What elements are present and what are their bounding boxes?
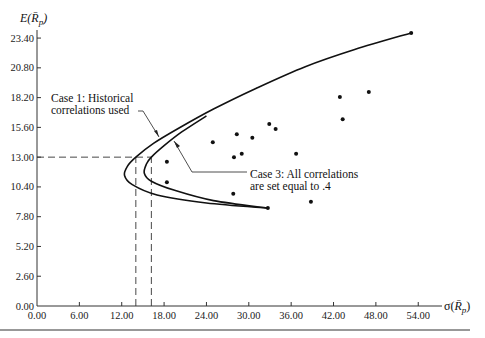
security-point: [211, 140, 215, 144]
x-tick-label: 42.00: [322, 310, 346, 321]
security-point: [367, 90, 371, 94]
y-tick-label: 7.80: [16, 211, 34, 222]
case1-label-line1: Case 1: Historical: [51, 92, 133, 104]
x-ticks: 0.006.0012.0018.0024.0030.0036.0042.0048…: [28, 302, 430, 321]
security-point: [341, 117, 345, 121]
y-tick-label: 0.00: [16, 301, 34, 312]
case3-label-line1: Case 3: All correlations: [250, 168, 359, 180]
security-point: [232, 155, 236, 159]
x-tick-label: 12.00: [110, 310, 134, 321]
case3-frontier-curve: [144, 116, 268, 208]
case3-leader-line: [174, 141, 247, 172]
security-point: [338, 95, 342, 99]
reference-lines: [37, 157, 151, 306]
case1-label-line2: correlations used: [51, 104, 129, 116]
security-point: [266, 206, 270, 210]
security-point: [294, 152, 298, 156]
security-point: [250, 136, 254, 140]
y-tick-label: 15.60: [10, 122, 34, 133]
x-tick-label: 36.00: [279, 310, 303, 321]
y-tick-label: 23.40: [10, 33, 34, 44]
x-tick-label: 48.00: [364, 310, 388, 321]
case3-annotation: Case 3: All correlations are set equal t…: [174, 141, 359, 193]
x-tick-label: 6.00: [70, 310, 88, 321]
case3-label-line2: are set equal to .4: [250, 180, 331, 193]
case1-arrow-icon: [154, 130, 159, 137]
security-point: [240, 152, 244, 156]
security-point: [231, 192, 235, 196]
security-point: [409, 31, 413, 35]
efficient-frontier-chart: 0.006.0012.0018.0024.0030.0036.0042.0048…: [0, 0, 485, 338]
security-point: [165, 180, 169, 184]
y-tick-label: 20.80: [10, 62, 34, 73]
security-point: [267, 122, 271, 126]
security-point: [274, 127, 278, 131]
x-axis-title: σ(R̄p): [444, 299, 470, 315]
y-axis-title: E(R̄p): [19, 11, 47, 27]
x-tick-label: 18.00: [152, 310, 176, 321]
x-tick-label: 30.00: [237, 310, 261, 321]
x-tick-label: 0.00: [28, 310, 46, 321]
case3-arrow-icon: [174, 141, 180, 148]
axes: [37, 30, 442, 306]
case1-annotation: Case 1: Historical correlations used: [51, 92, 159, 137]
security-point: [235, 132, 239, 136]
y-tick-label: 10.40: [10, 181, 34, 192]
y-tick-label: 5.20: [16, 241, 34, 252]
y-tick-label: 18.20: [10, 92, 34, 103]
x-tick-label: 24.00: [195, 310, 219, 321]
security-point: [309, 200, 313, 204]
y-ticks: 0.002.605.207.8010.4013.0015.6018.2020.8…: [10, 33, 41, 312]
x-tick-label: 54.00: [406, 310, 430, 321]
security-point: [165, 160, 169, 164]
y-tick-label: 2.60: [16, 271, 34, 282]
y-tick-label: 13.00: [10, 152, 34, 163]
